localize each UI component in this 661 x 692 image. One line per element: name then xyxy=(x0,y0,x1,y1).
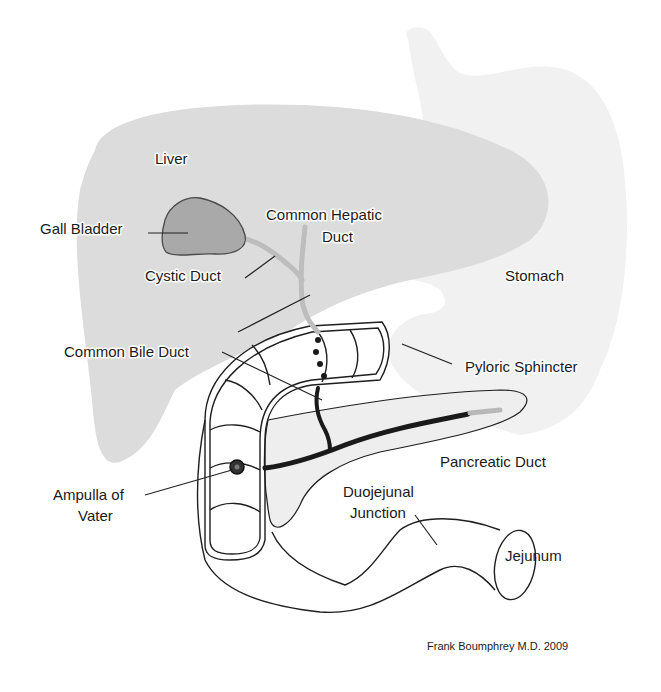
label-common-hepatic-duct-2: Duct xyxy=(322,228,354,245)
duodenal-fold xyxy=(350,330,358,378)
duodenal-fold xyxy=(210,503,260,512)
cbd-dot xyxy=(321,373,327,379)
cbd-dot xyxy=(317,361,323,367)
pancreatic-duct-tail xyxy=(470,410,500,413)
cbd-dot xyxy=(315,337,321,343)
jejunum-opening xyxy=(489,527,541,603)
leader-common-bile-duct-lower xyxy=(222,352,322,400)
label-stomach: Stomach xyxy=(505,267,564,284)
label-duojejunal-1: Duojejunal xyxy=(343,483,414,500)
ampulla-center xyxy=(235,465,240,470)
label-liver: Liver xyxy=(155,150,188,167)
duodenum-inner-outline xyxy=(272,519,500,585)
label-common-hepatic-duct-1: Common Hepatic xyxy=(266,206,382,223)
author-credit: Frank Boumphrey M.D. 2009 xyxy=(427,640,568,652)
label-cystic-duct: Cystic Duct xyxy=(145,267,222,284)
leader-ampulla xyxy=(145,470,232,495)
label-gall-bladder: Gall Bladder xyxy=(40,220,123,237)
label-duojejunal-2: Junction xyxy=(350,504,406,521)
label-jejunum: Jejunum xyxy=(505,547,562,564)
duodenal-fold xyxy=(210,425,260,432)
label-ampulla-2: Vater xyxy=(78,507,113,524)
label-pyloric-sphincter: Pyloric Sphincter xyxy=(465,358,578,375)
anatomy-diagram: Liver Gall Bladder Common Hepatic Duct C… xyxy=(0,0,661,692)
label-ampulla-1: Ampulla of xyxy=(53,486,125,503)
cbd-dot xyxy=(313,349,319,355)
duodenal-fold xyxy=(225,380,262,410)
label-pancreatic-duct: Pancreatic Duct xyxy=(440,453,547,470)
label-common-bile-duct: Common Bile Duct xyxy=(64,343,190,360)
